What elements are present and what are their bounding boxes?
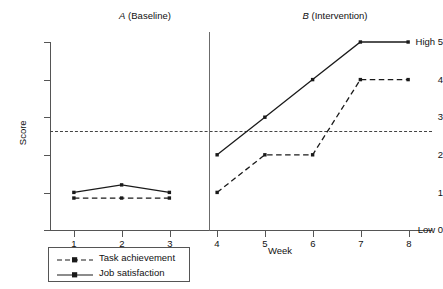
x-tick-6 <box>313 231 314 237</box>
data-point <box>311 153 314 156</box>
y-tick-label-3: 3 <box>401 112 443 122</box>
data-point <box>72 196 75 199</box>
data-point <box>168 196 171 199</box>
x-tick-3 <box>170 231 171 237</box>
series-line-phase-B <box>217 42 408 155</box>
y-axis-line <box>50 42 51 231</box>
data-point <box>120 183 123 186</box>
phase-a-header: A (Baseline) <box>85 10 205 21</box>
y-tick-3 <box>44 117 50 118</box>
data-point <box>215 191 218 194</box>
y-tick-label-5: High 5 <box>401 37 443 47</box>
legend-label-task-achievement: Task achievement <box>99 253 175 263</box>
data-point <box>263 153 266 156</box>
series-line-phase-A <box>74 185 170 193</box>
y-tick-4 <box>44 80 50 81</box>
x-tick-label-7: 7 <box>346 239 376 249</box>
y-tick-1 <box>44 193 50 194</box>
y-axis-title: Score <box>18 98 28 168</box>
data-point <box>359 78 362 81</box>
y-tick-2 <box>44 155 50 156</box>
x-tick-4 <box>217 231 218 237</box>
ab-design-line-chart: A (Baseline) B (Intervention) High 5 4 3… <box>0 0 443 289</box>
data-point <box>215 153 218 156</box>
phase-b-rest: (Intervention) <box>309 10 368 21</box>
x-tick-1 <box>74 231 75 237</box>
phase-a-rest: (Baseline) <box>125 10 170 21</box>
data-point <box>168 191 171 194</box>
y-tick-label-0: Low 0 <box>401 225 443 235</box>
y-tick-5 <box>44 42 50 43</box>
x-tick-label-8: 8 <box>394 239 424 249</box>
reference-line-2point5 <box>50 131 432 132</box>
data-point <box>359 40 362 43</box>
legend-label-job-satisfaction: Job satisfaction <box>99 268 164 278</box>
phase-b-header: B (Intervention) <box>265 10 405 21</box>
legend-swatch-dashed <box>55 252 95 264</box>
legend-item-task-achievement: Task achievement <box>49 250 191 266</box>
x-tick-7 <box>361 231 362 237</box>
y-tick-0 <box>44 230 50 231</box>
x-tick-5 <box>265 231 266 237</box>
data-point <box>311 78 314 81</box>
x-tick-8 <box>409 231 410 237</box>
data-point <box>72 191 75 194</box>
y-tick-label-1: 1 <box>401 188 443 198</box>
phase-divider-line <box>209 32 210 231</box>
x-tick-label-4: 4 <box>202 239 232 249</box>
x-axis-line <box>50 230 432 231</box>
legend: Task achievement Job satisfaction <box>48 247 190 282</box>
series-job-satisfaction <box>72 40 410 194</box>
x-axis-title: Week <box>240 246 320 256</box>
x-tick-2 <box>122 231 123 237</box>
y-tick-label-2: 2 <box>401 150 443 160</box>
series-line-phase-B <box>217 80 408 193</box>
y-tick-label-4: 4 <box>401 75 443 85</box>
legend-swatch-solid <box>55 267 95 279</box>
data-point <box>263 116 266 119</box>
data-point <box>120 196 123 199</box>
series-task-achievement <box>72 78 410 200</box>
legend-item-job-satisfaction: Job satisfaction <box>49 265 191 281</box>
